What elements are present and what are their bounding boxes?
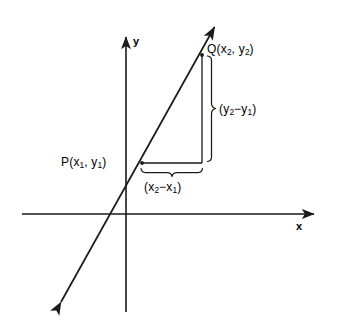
point-Q-label-close: ) (250, 42, 254, 56)
delta-y-brace-shape (208, 56, 216, 162)
point-P-label: P(x1, y1) (61, 156, 106, 169)
point-P-marker (140, 161, 144, 165)
diagram-canvas (0, 0, 341, 333)
delta-y-label-minus: −y (234, 102, 247, 116)
delta-y-label-close: ) (252, 102, 256, 116)
delta-y-label: (y2−y1) (219, 103, 256, 116)
delta-x-label-close: ) (177, 180, 181, 194)
y-axis-label: y (133, 36, 139, 47)
delta-x-brace-shape (141, 169, 203, 177)
x-axis-label: x (296, 221, 302, 232)
point-Q-label-mid: , y (232, 42, 245, 56)
delta-x-label-minus: −x (159, 180, 172, 194)
slope-diagram-figure: y x Q(x2, y2) P(x1, y1) (y2−y1) (x2−x1) (0, 0, 341, 333)
delta-x-label-open: (x (144, 180, 154, 194)
delta-y-label-open: (y (219, 102, 229, 116)
point-Q-label-open: Q(x (207, 42, 227, 56)
point-P-label-close: ) (102, 155, 106, 169)
point-Q-label: Q(x2, y2) (207, 43, 254, 56)
point-P-label-mid: , y (84, 155, 97, 169)
delta-x-label: (x2−x1) (144, 181, 181, 194)
point-Q-marker (200, 53, 204, 57)
point-P-label-open: P(x (61, 155, 80, 169)
